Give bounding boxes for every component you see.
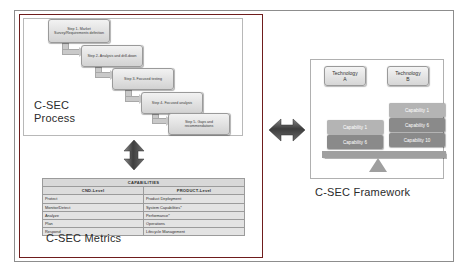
capability-block-right-3: Capability 10: [389, 133, 445, 147]
table-header-cnd: CND-Level: [43, 187, 144, 195]
fulcrum-triangle-icon: [369, 158, 387, 172]
table-header-product: PRODUCT-Level: [144, 187, 245, 195]
process-step-2-label: Step 2- Analysis and drill-down: [84, 54, 140, 58]
metrics-table: CAPABILITIES CND-Level PRODUCT-Level Pro…: [42, 178, 245, 236]
process-step-2: Step 2- Analysis and drill-down: [81, 45, 143, 67]
capability-block-left-2: Capability 6: [327, 135, 383, 149]
table-row-headers: CND-Level PRODUCT-Level: [43, 187, 245, 195]
process-step-3-label: Step 3- Focused testing: [115, 77, 171, 81]
process-step-1: Step 1- Market Survey/Requirements defin…: [48, 19, 110, 43]
metrics-caption: C-SEC Metrics: [46, 232, 121, 244]
table-cell-cnd-3: Analyze: [43, 211, 144, 219]
process-step-5-label: Step 5- Gaps and recommendations: [171, 120, 227, 129]
balance-beam: [322, 151, 446, 158]
process-caption: C-SEC Process: [34, 99, 75, 124]
table-cell-cnd-1: Protect: [43, 195, 144, 203]
process-step-4: Step 4- Focused analysis: [141, 92, 203, 114]
process-step-3: Step 3- Focused testing: [112, 68, 174, 90]
table-row: Protect Product Deployment: [43, 195, 245, 203]
table-title-capabilities: CAPABILITIES: [43, 179, 245, 187]
table-row: Plan Operations: [43, 219, 245, 227]
connector-1-horizontal: [62, 49, 80, 55]
table-cell-product-4: Operations: [144, 219, 245, 227]
horizontal-double-arrow-icon: [269, 118, 305, 142]
table-cell-product-5: Lifecycle Management: [144, 228, 245, 236]
table-row: Analyze Performance*: [43, 211, 245, 219]
process-step-1-label: Step 1- Market Survey/Requirements defin…: [51, 27, 107, 36]
framework-caption: C-SEC Framework: [315, 186, 410, 198]
diagram-canvas: Step 1- Market Survey/Requirements defin…: [0, 0, 467, 272]
technology-box-a: Technology A: [324, 66, 366, 86]
capability-block-right-1: Capability 1: [389, 103, 445, 117]
table-row: Monitor/Detect System Capabilities*: [43, 203, 245, 211]
table-cell-product-3: Performance*: [144, 211, 245, 219]
table-cell-cnd-2: Monitor/Detect: [43, 203, 144, 211]
process-step-4-label: Step 4- Focused analysis: [144, 101, 200, 105]
capability-block-left-1: Capability 1: [327, 120, 383, 134]
process-step-5: Step 5- Gaps and recommendations: [168, 113, 230, 135]
table-cell-cnd-4: Plan: [43, 219, 144, 227]
table-cell-product-1: Product Deployment: [144, 195, 245, 203]
table-row-title: CAPABILITIES: [43, 179, 245, 187]
table-cell-product-2: System Capabilities*: [144, 203, 245, 211]
technology-box-b: Technology B: [387, 66, 429, 86]
vertical-double-arrow-icon: [123, 140, 145, 170]
capability-block-right-2: Capability 6: [389, 118, 445, 132]
